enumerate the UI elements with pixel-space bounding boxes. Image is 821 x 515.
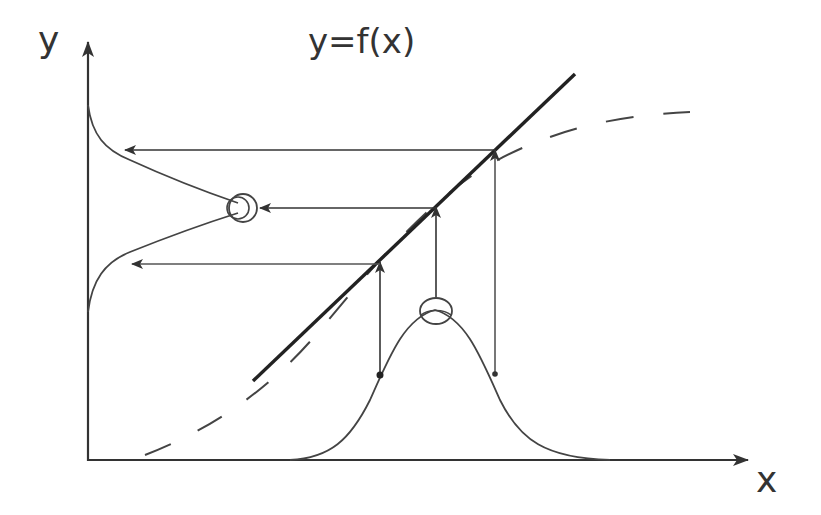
diagram-canvas: y=f(x) y x — [0, 0, 821, 515]
diagram-svg — [0, 0, 821, 515]
vertical-projection-arrows — [377, 150, 498, 379]
y-axis-label: y — [38, 22, 59, 58]
x-axis-label: x — [756, 462, 777, 498]
axes — [88, 42, 748, 461]
input-distribution-curve — [290, 310, 610, 460]
input-point-left — [377, 372, 384, 379]
output-distribution-curve — [88, 105, 238, 312]
input-point-right — [492, 371, 498, 377]
diagram-title: y=f(x) — [308, 24, 415, 58]
transfer-line-solid — [253, 74, 575, 381]
transfer-curve-dashed — [145, 112, 690, 455]
input-peak-marker — [420, 298, 452, 324]
horizontal-projection-arrows — [125, 150, 495, 264]
output-peak-marker — [227, 194, 257, 222]
